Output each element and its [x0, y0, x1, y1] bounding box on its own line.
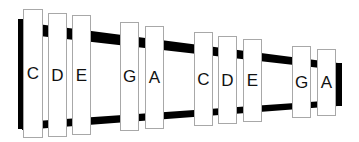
note-label: D — [221, 72, 233, 89]
note-label: D — [51, 67, 63, 84]
bar-d2: D — [218, 36, 237, 124]
note-label: E — [76, 67, 87, 84]
bar-g2: G — [292, 46, 311, 118]
note-label: G — [295, 74, 308, 91]
top-rail — [22, 22, 338, 70]
note-label: A — [149, 69, 160, 86]
note-label: C — [27, 65, 39, 82]
bar-e1: E — [72, 15, 91, 135]
bar-e2: E — [243, 39, 262, 122]
note-label: C — [197, 71, 209, 88]
note-label: E — [247, 72, 258, 89]
bar-d1: D — [48, 13, 67, 137]
xylophone-diagram: C D E G A C D E G A — [0, 0, 359, 142]
bar-c1: C — [23, 9, 43, 138]
bar-a2: A — [317, 49, 336, 116]
bar-g1: G — [120, 22, 139, 131]
bar-a1: A — [145, 26, 164, 129]
note-label: A — [321, 74, 332, 91]
bottom-rail — [22, 100, 338, 130]
note-label: G — [123, 68, 136, 85]
bar-c2: C — [194, 32, 213, 126]
